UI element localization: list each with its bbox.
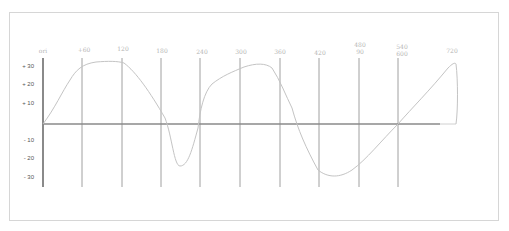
column-label: 540 600	[396, 43, 407, 57]
column-label: 240	[196, 48, 207, 55]
column-label: 420	[314, 49, 325, 56]
column-label: 180	[156, 47, 167, 54]
y-tick: + 20	[4, 81, 34, 87]
column-label: ori	[39, 47, 47, 54]
column-label: 480 90	[354, 41, 365, 55]
column-label: +60	[78, 46, 91, 53]
data-curve	[43, 61, 458, 176]
y-tick: - 30	[4, 174, 34, 180]
column-label: 120	[117, 45, 128, 52]
grid-lines	[82, 58, 398, 187]
y-tick: - 10	[4, 137, 34, 143]
chart-canvas	[0, 0, 509, 231]
column-label: 300	[235, 48, 246, 55]
y-tick: + 30	[4, 63, 34, 69]
column-label: 720	[446, 47, 457, 54]
y-tick: - 20	[4, 155, 34, 161]
y-tick: + 10	[4, 100, 34, 106]
column-label: 360	[274, 48, 285, 55]
